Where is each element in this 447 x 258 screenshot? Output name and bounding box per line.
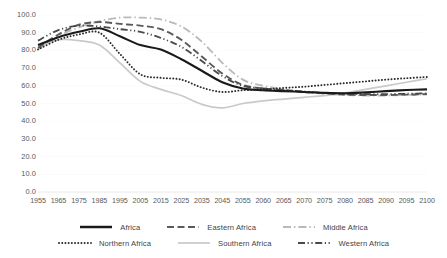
series-line-southern-africa — [38, 39, 427, 108]
legend-swatch-dotted — [58, 238, 92, 248]
x-axis-tick-label: 2055 — [235, 196, 251, 205]
legend-swatch-solid-light — [177, 238, 211, 248]
x-axis-tick-label: 2015 — [153, 196, 169, 205]
x-axis-tick-label: 2065 — [276, 196, 292, 205]
x-axis-tick-label: 2075 — [317, 196, 333, 205]
legend-swatch-dashdot-light — [282, 222, 316, 232]
legend-label: Southern Africa — [218, 239, 271, 248]
x-axis-tick-label: 2085 — [358, 196, 374, 205]
x-axis-tick-label: 2090 — [378, 196, 394, 205]
legend-row: AfricaEastern AfricaMiddle Africa — [0, 219, 447, 235]
legend-label: Middle Africa — [323, 223, 368, 232]
x-axis-tick-label: 2035 — [194, 196, 210, 205]
x-axis-tick-label: 1955 — [30, 196, 46, 205]
legend-label: Eastern Africa — [207, 223, 256, 232]
legend-item-africa[interactable]: Africa — [79, 222, 140, 232]
x-axis-tick-label: 1965 — [51, 196, 67, 205]
x-axis-tick-label: 1985 — [92, 196, 108, 205]
legend-item-middle-africa[interactable]: Middle Africa — [282, 222, 368, 232]
legend-item-southern-africa[interactable]: Southern Africa — [177, 238, 271, 248]
x-axis-tick-label: 2100 — [419, 196, 435, 205]
x-axis-tick-label: 2005 — [133, 196, 149, 205]
x-axis-tick-label: 2095 — [399, 196, 415, 205]
x-axis-tick-label: 2080 — [337, 196, 353, 205]
x-axis-tick-label: 2070 — [296, 196, 312, 205]
series-line-northern-africa — [38, 31, 427, 92]
x-axis-tick-label: 2045 — [214, 196, 230, 205]
line-chart: 0.010.020.030.040.050.060.070.080.090.01… — [0, 0, 447, 258]
legend-label: Western Africa — [338, 239, 389, 248]
legend-label: Northern Africa — [99, 239, 151, 248]
legend-swatch-dashed — [166, 222, 200, 232]
series-line-africa — [38, 28, 427, 93]
series-line-western-africa — [38, 25, 427, 94]
x-axis-tick-label: 1975 — [71, 196, 87, 205]
legend-swatch-dashdotdot — [297, 238, 331, 248]
x-axis: 1955196519751985199520052015202520352045… — [0, 196, 447, 210]
x-axis-tick-label: 2025 — [174, 196, 190, 205]
legend-row: Northern AfricaSouthern AfricaWestern Af… — [0, 235, 447, 251]
legend-label: Africa — [120, 223, 140, 232]
plot-svg — [0, 0, 447, 214]
plot-area: 0.010.020.030.040.050.060.070.080.090.01… — [0, 0, 447, 214]
legend-item-western-africa[interactable]: Western Africa — [297, 238, 389, 248]
legend-item-eastern-africa[interactable]: Eastern Africa — [166, 222, 256, 232]
legend-item-northern-africa[interactable]: Northern Africa — [58, 238, 151, 248]
chart-legend: AfricaEastern AfricaMiddle Africa Northe… — [0, 214, 447, 258]
x-axis-tick-label: 2060 — [255, 196, 271, 205]
x-axis-tick-label: 1995 — [112, 196, 128, 205]
legend-swatch-solid — [79, 222, 113, 232]
